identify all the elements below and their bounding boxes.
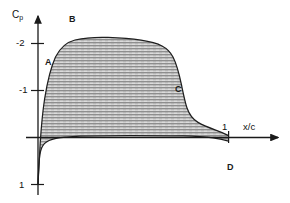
x-axis-label: x/c bbox=[243, 122, 255, 132]
cp-distribution-figure: Cp x/c -2 -1 1 1 A B C D bbox=[0, 0, 290, 203]
y-tick-label-minus-2: -2 bbox=[16, 38, 24, 48]
lower-surface-cp-curve bbox=[38, 136, 229, 185]
y-tick-label-plus-1: 1 bbox=[19, 180, 24, 190]
annotation-label-b: B bbox=[69, 15, 76, 24]
annotation-label-a: A bbox=[45, 58, 52, 67]
y-tick-label-minus-1: -1 bbox=[19, 85, 27, 95]
shaded-cp-area bbox=[38, 37, 229, 184]
y-axis-label: Cp bbox=[12, 10, 23, 21]
annotation-label-c: C bbox=[175, 85, 182, 94]
annotation-label-d: D bbox=[227, 163, 234, 172]
y-axis-label-subscript: p bbox=[19, 14, 23, 21]
plot-canvas bbox=[0, 0, 290, 203]
x-tick-label-1: 1 bbox=[222, 122, 227, 132]
